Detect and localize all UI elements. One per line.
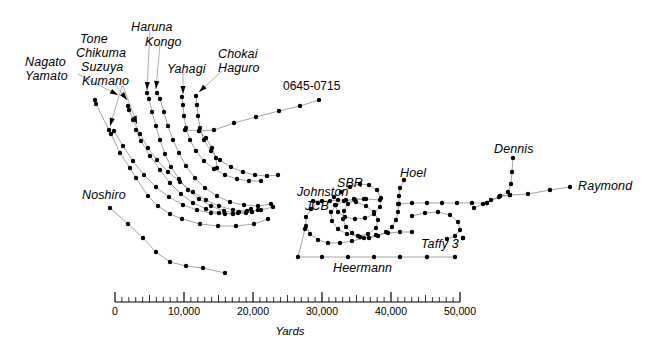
position-dot [353, 198, 357, 202]
position-dot [146, 146, 150, 150]
position-dot [139, 139, 143, 143]
leader-arrowhead-icon [145, 82, 150, 90]
position-dot [183, 128, 187, 132]
position-dot [155, 158, 159, 162]
position-dot [489, 198, 493, 202]
scale-tick-label: 40,000 [375, 305, 407, 317]
position-dot [510, 170, 514, 174]
position-dot [481, 202, 485, 206]
position-dot [345, 232, 349, 236]
ship-label-tone: Tone [80, 33, 108, 46]
position-dot [193, 176, 197, 180]
position-dot [148, 154, 152, 158]
position-dot [526, 192, 530, 196]
position-dot [145, 91, 149, 95]
position-dot [398, 186, 402, 190]
position-dot [256, 204, 260, 208]
ship-label-hoel: Hoel [400, 167, 426, 180]
position-dot [228, 200, 232, 204]
position-dot [163, 152, 167, 156]
position-dot [195, 103, 199, 107]
position-dot [191, 190, 195, 194]
position-dot [548, 188, 552, 192]
position-dot [308, 232, 312, 236]
position-dot [158, 138, 162, 142]
position-dot [410, 214, 414, 218]
position-dot [511, 156, 515, 160]
position-dot [142, 173, 146, 177]
position-dot [204, 136, 208, 140]
position-dot [320, 255, 324, 259]
position-dot [236, 211, 240, 215]
position-dot [204, 198, 208, 202]
ship-label-dennis: Dennis [494, 143, 534, 156]
position-dot [146, 194, 150, 198]
position-dot [425, 201, 429, 205]
position-dot [171, 138, 175, 142]
position-dot [223, 271, 227, 275]
position-dot [338, 241, 342, 245]
position-dot [197, 197, 201, 201]
ship-label-yahagi: Yahagi [167, 63, 206, 76]
ship-label-kongo: Kongo [145, 36, 182, 49]
ship-track-lines [95, 93, 570, 273]
position-dot [304, 215, 308, 219]
position-dot [453, 255, 457, 259]
position-dot [367, 236, 371, 240]
position-dot [350, 239, 354, 243]
position-dot [121, 144, 125, 148]
position-dot [326, 241, 330, 245]
position-dot [378, 205, 382, 209]
position-dot [235, 177, 239, 181]
position-dot [461, 236, 465, 240]
position-dot [128, 166, 132, 170]
position-dot [134, 128, 138, 132]
position-dot [222, 209, 226, 213]
position-dot [241, 170, 245, 174]
position-dot [470, 201, 474, 205]
position-dot [231, 208, 235, 212]
position-dot [147, 97, 151, 101]
position-dot [194, 149, 198, 153]
track-line [136, 130, 258, 214]
position-dot [118, 151, 122, 155]
position-dot [458, 228, 462, 232]
position-dot [201, 266, 205, 270]
position-dot [177, 151, 181, 155]
leader-arrowhead-icon [110, 89, 118, 95]
position-dot [223, 173, 227, 177]
track-line [110, 208, 225, 273]
position-dot [342, 199, 346, 203]
position-dot [367, 183, 371, 187]
position-dot [396, 202, 400, 206]
ship-label-nagato: Nagato [25, 56, 66, 69]
ship-label-sbr: SBR [337, 177, 363, 190]
position-dot [410, 201, 414, 205]
position-dot [212, 128, 216, 132]
ship-label-heermann: Heermann [333, 262, 392, 275]
position-dot [508, 193, 512, 197]
track-line [157, 93, 271, 206]
position-dot [277, 109, 281, 113]
position-dot [455, 201, 459, 205]
position-dot [215, 194, 219, 198]
scale-tick-label: 10,000 [168, 305, 200, 317]
position-dot [217, 204, 221, 208]
position-dot [362, 236, 366, 240]
position-dot [253, 173, 257, 177]
position-dot [375, 188, 379, 192]
position-dot [138, 132, 142, 136]
scale-tick-label: 30,000 [306, 305, 338, 317]
position-dot [150, 110, 154, 114]
position-dot [485, 201, 489, 205]
position-dot [296, 255, 300, 259]
position-dot [366, 232, 370, 236]
position-dot [209, 204, 213, 208]
position-dot [202, 159, 206, 163]
position-dot [254, 115, 258, 119]
position-dot [330, 219, 334, 223]
position-dot [269, 202, 273, 206]
ship-position-dots [93, 91, 572, 275]
position-dot [396, 210, 400, 214]
track-line [412, 212, 460, 239]
